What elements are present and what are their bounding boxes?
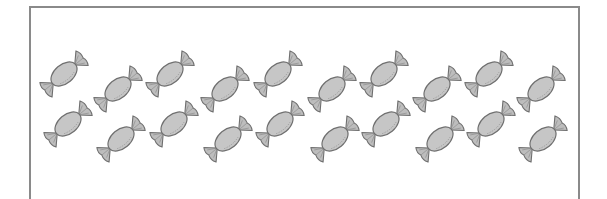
candy-icon: [465, 99, 517, 149]
candy-icon: [411, 64, 463, 114]
candy-icon: [306, 64, 358, 114]
candy-icon: [254, 99, 306, 149]
candy-icon: [144, 49, 196, 99]
candy-icon: [515, 64, 567, 114]
candy-icon: [360, 99, 412, 149]
candy-icon: [202, 114, 254, 164]
candy-icon: [199, 64, 251, 114]
candy-icon: [92, 64, 144, 114]
candy-icon: [358, 49, 410, 99]
candy-icon: [309, 114, 361, 164]
candy-icon: [148, 99, 200, 149]
candy-icon: [463, 49, 515, 99]
candy-icon: [95, 114, 147, 164]
candy-icon: [414, 114, 466, 164]
candy-icon: [42, 99, 94, 149]
candy-icon: [517, 114, 569, 164]
candy-icon: [38, 49, 90, 99]
candy-icon: [252, 49, 304, 99]
candy-collection: [0, 0, 607, 199]
